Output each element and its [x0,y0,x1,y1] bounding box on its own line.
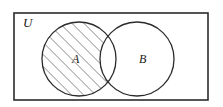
set-label-b: B [139,52,147,66]
set-label-a: A [71,52,80,66]
universe-label: U [23,15,34,30]
venn-diagram-figure: U A B [0,0,223,107]
shaded-region-a-minus-b [0,0,223,107]
venn-diagram-canvas: U A B [0,0,223,107]
